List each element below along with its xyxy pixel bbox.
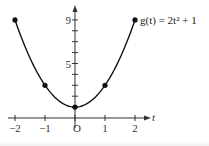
x-tick-label: −1 <box>39 122 51 134</box>
x-tick-label: 2 <box>132 122 138 134</box>
y-tick-label: 9 <box>66 14 72 26</box>
x-axis-label: t <box>152 111 156 123</box>
data-point <box>12 17 17 22</box>
x-tick-label: −2 <box>9 122 21 134</box>
axes <box>8 5 151 128</box>
y-tick-label: 5 <box>66 58 72 70</box>
data-point <box>72 105 77 110</box>
data-point <box>42 83 47 88</box>
x-axis-arrow-icon <box>144 116 151 121</box>
function-label: g(t) = 2t² + 1 <box>140 14 197 27</box>
x-tick-label: O <box>73 122 81 134</box>
data-point <box>102 83 107 88</box>
data-point <box>132 17 137 22</box>
y-axis-arrow-icon <box>73 5 78 12</box>
parabola-chart: −2−1O1259 g(t) = 2t² + 1 t <box>0 0 209 146</box>
cropped-caption <box>0 141 209 146</box>
x-tick-label: 1 <box>102 122 108 134</box>
